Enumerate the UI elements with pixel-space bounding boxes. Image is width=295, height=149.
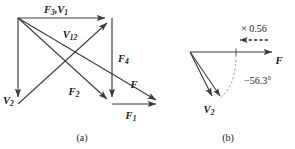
label-f-resultant: F — [129, 79, 137, 90]
label-angle: −56.3° — [244, 75, 271, 86]
label-f4: F4 — [117, 53, 129, 66]
vector-v2-scaled — [191, 53, 221, 97]
rotation-arc — [220, 55, 236, 98]
vector-v2-panel-b — [190, 52, 212, 96]
label-f1: F1 — [125, 110, 137, 123]
panel-a-group: F3,V1 V12 F4 V2 F2 F F1 (a) — [3, 4, 156, 144]
caption-panel-b: (b) — [222, 132, 234, 144]
caption-panel-a: (a) — [76, 132, 87, 144]
panel-b-group: × 0.56 −56.3° F V2 (b) — [190, 23, 283, 144]
label-scale-factor: × 0.56 — [241, 23, 267, 34]
label-f2: F2 — [68, 86, 80, 99]
vector-diagram-svg: F3,V1 V12 F4 V2 F2 F F1 (a) × 0 — [0, 0, 295, 149]
figure-container: F3,V1 V12 F4 V2 F2 F F1 (a) × 0 — [0, 0, 295, 149]
label-v12: V12 — [63, 29, 78, 42]
label-f3-v1: F3,V1 — [43, 4, 68, 17]
label-v2-panel-b: V2 — [204, 104, 215, 117]
label-f-panel-b: F — [274, 55, 282, 66]
label-v2: V2 — [3, 95, 14, 108]
